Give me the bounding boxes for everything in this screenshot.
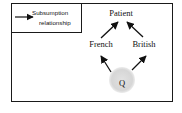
legend-label-line2: relationship — [39, 19, 71, 26]
node-french: French — [89, 39, 113, 49]
node-patient: Patient — [109, 8, 133, 18]
legend: Subsumption relationship — [12, 4, 82, 33]
node-british: British — [132, 39, 156, 49]
subsumption-diagram: Subsumption relationship Patient French … — [0, 0, 182, 113]
legend-label-line1: Subsumption — [32, 9, 69, 16]
node-q: Q — [119, 78, 125, 88]
legend-box — [12, 4, 82, 33]
